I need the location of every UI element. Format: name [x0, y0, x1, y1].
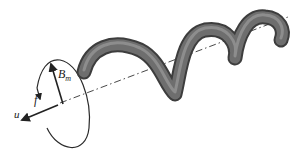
velocity-arrow — [22, 105, 58, 120]
rotation-label: f — [34, 94, 37, 106]
helix-filament — [84, 15, 282, 94]
rotation-arrow-icon — [37, 88, 40, 99]
magnetic-field-label: Bm — [58, 68, 71, 83]
velocity-label: u — [14, 109, 20, 120]
helix-diagram — [0, 0, 299, 161]
